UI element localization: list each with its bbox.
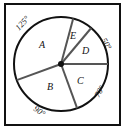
radius-200deg xyxy=(17,64,61,80)
radius-290deg xyxy=(61,64,77,108)
pie-diagram: A B C D E 125° 50° 70° 90° xyxy=(0,0,127,127)
sector-label-a: A xyxy=(38,39,46,50)
center-point xyxy=(58,61,64,67)
sector-label-c: C xyxy=(77,75,84,86)
sector-label-e: E xyxy=(69,30,76,41)
sector-label-d: D xyxy=(81,45,90,56)
sector-label-b: B xyxy=(47,81,53,92)
angle-label-b: 90° xyxy=(32,103,48,118)
